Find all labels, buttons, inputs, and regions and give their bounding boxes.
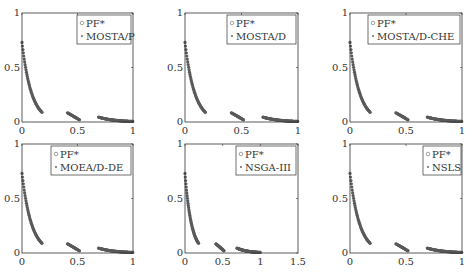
data-point [21, 44, 24, 47]
y-tick-label: 1 [177, 7, 183, 18]
data-point [259, 251, 262, 254]
data-point [349, 175, 352, 178]
data-point [186, 57, 189, 60]
legend-algorithm-label: NSGA-III [245, 162, 291, 173]
plot-svg: 00.5100.51 PF* NSLS [330, 138, 467, 271]
data-point [185, 54, 188, 57]
data-point [23, 57, 26, 60]
data-point [349, 44, 352, 47]
dot-marker-icon [240, 166, 242, 168]
plot-svg: 00.5100.51 PF* MOEA/D-DE [2, 138, 145, 271]
y-tick-label: 0 [14, 247, 20, 258]
x-tick-label: 0.5 [215, 256, 231, 267]
pareto-front-points [20, 172, 134, 254]
dot-marker-icon [372, 35, 374, 37]
legend-algorithm-label: MOEA/D-DE [60, 162, 123, 173]
plot-panel-5: 00.511.500.51 PF* NSGA-III [165, 138, 310, 275]
pareto-front-points [348, 41, 463, 123]
x-tick-label: 0.5 [70, 125, 86, 136]
data-point [222, 249, 225, 252]
data-point [78, 249, 81, 252]
data-point [186, 60, 189, 63]
plot-panel-3: 00.5100.51 PF* MOSTA/D-CHE [330, 7, 467, 144]
y-tick-label: 0 [14, 116, 20, 127]
data-point [406, 118, 409, 121]
y-tick-label: 0.5 [4, 62, 20, 73]
x-tick-label: 1 [130, 125, 136, 136]
dot-marker-icon [55, 166, 57, 168]
data-point [351, 57, 354, 60]
data-point [22, 185, 25, 188]
y-tick-label: 0 [342, 247, 348, 258]
data-point [406, 249, 409, 252]
y-tick-label: 0.5 [167, 193, 183, 204]
plot-panel-4: 00.5100.51 PF* MOEA/D-DE [2, 138, 145, 275]
pareto-front-points [183, 41, 299, 123]
data-point [369, 111, 372, 114]
plot-panel-6: 00.5100.51 PF* NSLS [330, 138, 467, 275]
y-tick-label: 0 [342, 116, 348, 127]
y-tick-label: 0.5 [332, 62, 348, 73]
x-tick-label: 1.5 [290, 256, 306, 267]
x-tick-label: 1 [130, 256, 136, 267]
y-tick-label: 1 [14, 7, 20, 18]
data-point [40, 111, 43, 114]
x-tick-label: 1 [295, 125, 301, 136]
y-tick-label: 0 [177, 247, 183, 258]
y-tick-label: 1 [14, 138, 20, 149]
data-point [351, 188, 354, 191]
data-point [197, 242, 200, 245]
data-point [40, 242, 43, 245]
data-point [23, 191, 26, 194]
y-tick-label: 0.5 [4, 193, 20, 204]
dot-marker-icon [231, 35, 233, 37]
data-point [184, 179, 187, 182]
legend-pf-label: PF* [236, 18, 255, 29]
plot-svg: 00.5100.51 PF* MOSTA/P [2, 7, 145, 140]
plot-svg: 00.5100.51 PF* MOSTA/D-CHE [330, 7, 467, 140]
data-point [351, 191, 354, 194]
y-tick-label: 1 [342, 7, 348, 18]
legend-pf-label: PF* [86, 18, 105, 29]
legend: PF* NSLS [423, 146, 461, 175]
data-point [21, 175, 24, 178]
x-tick-label: 0.5 [398, 125, 414, 136]
data-point [204, 111, 207, 114]
x-tick-label: 0.5 [70, 256, 86, 267]
x-tick-label: 0.5 [398, 256, 414, 267]
plot-panel-1: 00.5100.51 PF* MOSTA/P [2, 7, 145, 144]
data-point [23, 188, 26, 191]
legend: PF* MOEA/D-DE [51, 146, 131, 175]
legend: PF* MOSTA/D [227, 15, 296, 44]
y-tick-label: 1 [177, 138, 183, 149]
pareto-front-points [183, 172, 261, 254]
y-tick-label: 0 [177, 116, 183, 127]
data-point [351, 60, 354, 63]
plot-svg: 00.5100.51 PF* MOSTA/D [165, 7, 310, 140]
legend-pf-label: PF* [377, 18, 396, 29]
pareto-front-points [348, 172, 463, 254]
legend-pf-label: PF* [245, 149, 264, 160]
legend-algorithm-label: MOSTA/D-CHE [377, 31, 454, 42]
y-tick-label: 0.5 [332, 193, 348, 204]
data-point [22, 54, 25, 57]
data-point [184, 44, 187, 47]
legend: PF* MOSTA/P [77, 15, 135, 44]
legend-algorithm-label: NSLS [432, 162, 461, 173]
data-point [369, 242, 372, 245]
data-point [242, 118, 245, 121]
data-point [185, 191, 188, 194]
data-point [78, 118, 81, 121]
x-tick-label: 0.5 [234, 125, 250, 136]
legend: PF* NSGA-III [236, 146, 296, 175]
data-point [350, 54, 353, 57]
x-tick-label: 1 [257, 256, 263, 267]
legend-pf-label: PF* [60, 149, 79, 160]
plot-panel-2: 00.5100.51 PF* MOSTA/D [165, 7, 310, 144]
data-point [23, 60, 26, 63]
y-tick-label: 0.5 [167, 62, 183, 73]
x-tick-label: 1 [459, 256, 465, 267]
dot-marker-icon [81, 35, 83, 37]
data-point [350, 185, 353, 188]
y-tick-label: 1 [342, 138, 348, 149]
